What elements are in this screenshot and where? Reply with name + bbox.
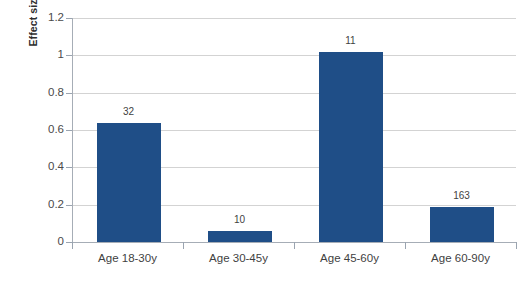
x-axis-tick-mark [294,242,295,249]
y-axis-tick-label: 0.2 [28,199,64,211]
bar[interactable] [319,52,383,242]
x-axis-category-label: Age 60-90y [431,252,490,266]
x-axis-tick-mark [183,242,184,249]
y-axis-tick-label: 0 [28,236,64,248]
plot-area: 321011163 [72,18,516,242]
y-axis-tick-label: 1 [28,50,64,62]
x-axis-category-label: Age 18-30y [98,252,157,266]
bar[interactable] [430,207,494,242]
x-axis-tick-mark [72,242,73,249]
y-axis-tick-labels: 00.20.40.60.811.2 [28,0,64,284]
y-axis-tick-label: 0.4 [28,162,64,174]
bar-chart: Effect size 00.20.40.60.811.2 321011163 … [0,0,527,284]
y-axis-tick-label: 1.2 [28,12,64,24]
y-axis-tick-label: 0.6 [28,124,64,136]
y-axis-tick-label: 0.8 [28,87,64,99]
x-axis-tick-mark [516,242,517,249]
bar-slot: 10 [184,18,295,242]
bar-value-label: 10 [234,215,245,225]
bar-slot: 32 [73,18,184,242]
x-axis-tick-marks [72,242,516,249]
x-axis-category-labels: Age 18-30yAge 30-45yAge 45-60yAge 60-90y [72,252,516,276]
bar-slot: 11 [295,18,406,242]
x-axis-category-label: Age 45-60y [320,252,379,266]
x-axis-category-label: Age 30-45y [209,252,268,266]
bar[interactable] [208,231,272,242]
bar-slot: 163 [406,18,517,242]
bar[interactable] [97,123,161,242]
bar-value-label: 11 [345,36,355,46]
bar-value-label: 163 [453,191,470,201]
x-axis-tick-mark [405,242,406,249]
bar-value-label: 32 [123,107,134,117]
